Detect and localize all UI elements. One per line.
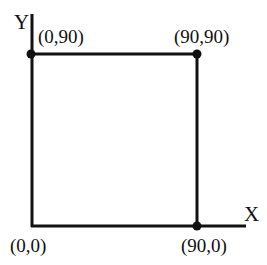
- y-axis-label: Y: [14, 12, 29, 33]
- point-90-0-marker: [193, 222, 202, 231]
- x-axis-label: X: [244, 204, 259, 225]
- point-0-90-marker: [27, 50, 36, 59]
- point-90-90-marker: [193, 50, 202, 59]
- point-label-origin: (0,0): [10, 236, 46, 255]
- point-label-top-right: (90,90): [174, 27, 229, 46]
- point-label-top-left: (0,90): [38, 27, 84, 46]
- point-label-bottom-right: (90,0): [181, 236, 227, 255]
